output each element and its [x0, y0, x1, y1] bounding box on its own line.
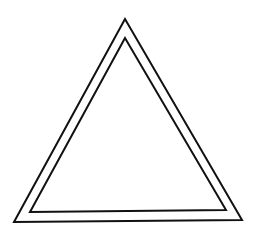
triangle-figure: [0, 0, 259, 236]
